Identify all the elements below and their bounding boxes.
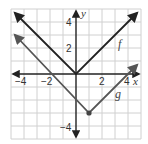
x-tick-label: 2 [99, 76, 105, 87]
y-tick-label: −4 [60, 122, 72, 133]
y-tick-label: 2 [66, 43, 72, 54]
x-tick-label: −2 [41, 76, 53, 87]
x-tick-label: 4 [124, 76, 130, 87]
x-tick-label: −4 [15, 76, 27, 87]
function-g-label: g [115, 87, 121, 101]
function-f-label: f [118, 37, 123, 51]
y-axis-label: y [80, 7, 86, 19]
y-tick-label: 4 [66, 17, 72, 28]
g-vertex-point [86, 110, 91, 115]
coordinate-graph: −4 −2 2 4 x 4 2 −4 y f g [0, 0, 148, 144]
x-axis-label: x [132, 75, 138, 87]
